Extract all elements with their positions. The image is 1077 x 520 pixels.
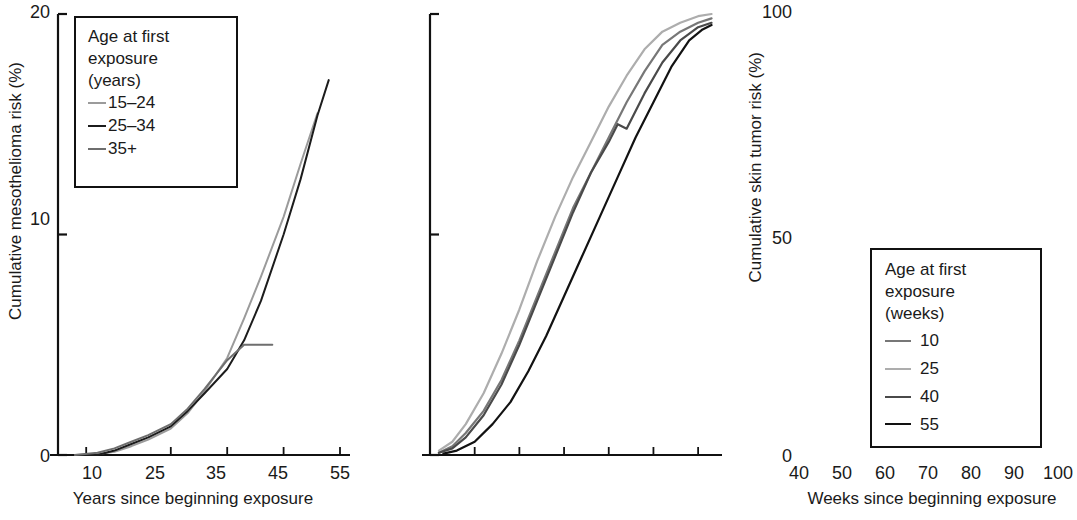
y-tick-left-20: 20 xyxy=(12,2,50,23)
x-axis-label-left: Years since beginning exposure xyxy=(28,489,358,509)
x-tick-left-55: 55 xyxy=(320,463,360,484)
x-tick-left-45: 45 xyxy=(258,463,298,484)
legend-right-label-25: 25 xyxy=(920,358,939,380)
legend-left-title-line-1: Age at first xyxy=(88,26,236,48)
legend-right-title-line-3: (weeks) xyxy=(885,303,1040,325)
x-axis-label-right: Weeks since beginning exposure xyxy=(764,489,1077,509)
legend-right-label-55: 55 xyxy=(920,414,939,436)
legend-right-label-40: 40 xyxy=(920,386,939,408)
legend-swatch-icon-40 xyxy=(885,396,911,398)
legend-right-entry-10: 10 xyxy=(885,330,1040,352)
x-tick-left-10: 10 xyxy=(72,463,112,484)
legend-right-entry-25: 25 xyxy=(885,358,1040,380)
x-tick-right-60: 60 xyxy=(868,463,902,484)
x-tick-right-80: 80 xyxy=(954,463,988,484)
y-tick-right-100: 100 xyxy=(734,2,792,23)
chart-panel-left: Cumulative mesothelioma risk (%) Years s… xyxy=(0,0,368,520)
x-tick-left-35: 35 xyxy=(196,463,236,484)
legend-left-label-15-24: 15–24 xyxy=(108,92,155,114)
skin-tumor-plot xyxy=(368,0,736,520)
legend-left-label-35-plus: 35+ xyxy=(108,138,137,160)
x-tick-right-40: 40 xyxy=(782,463,816,484)
legend-left-entry-35-plus: 35+ xyxy=(88,138,236,160)
legend-left: Age at first exposure (years) 15–24 25–3… xyxy=(74,16,238,188)
y-tick-left-0: 0 xyxy=(12,446,50,467)
x-tick-right-50: 50 xyxy=(825,463,859,484)
legend-left-entry-15-24: 15–24 xyxy=(88,92,236,114)
legend-swatch-icon-35-plus xyxy=(88,148,106,150)
chart-panel-right: Cumulative skin tumor risk (%) Weeks sin… xyxy=(368,0,736,520)
legend-swatch-icon-15-24 xyxy=(88,102,106,104)
y-axis-label-left: Cumulative mesothelioma risk (%) xyxy=(6,62,26,320)
x-tick-right-70: 70 xyxy=(911,463,945,484)
x-tick-right-90: 90 xyxy=(997,463,1031,484)
legend-swatch-icon-55 xyxy=(885,423,911,425)
legend-swatch-icon-10 xyxy=(885,340,911,342)
legend-left-title-line-2: exposure xyxy=(88,48,236,70)
x-tick-left-25: 25 xyxy=(135,463,175,484)
legend-right-entry-40: 40 xyxy=(885,386,1040,408)
legend-swatch-icon-25 xyxy=(885,368,911,370)
legend-right-title-line-1: Age at first xyxy=(885,259,1040,281)
legend-right-title-line-2: exposure xyxy=(885,281,1040,303)
y-tick-right-50: 50 xyxy=(744,228,792,249)
legend-right-entry-55: 55 xyxy=(885,414,1040,436)
legend-swatch-icon-25-34 xyxy=(88,125,106,127)
legend-right-label-10: 10 xyxy=(920,330,939,352)
legend-left-title-line-3: (years) xyxy=(88,70,236,92)
x-tick-right-100: 100 xyxy=(1036,463,1077,484)
legend-right: Age at first exposure (weeks) 10 25 40 5… xyxy=(870,248,1042,448)
y-tick-left-10: 10 xyxy=(12,209,50,230)
legend-left-entry-25-34: 25–34 xyxy=(88,115,236,137)
legend-left-label-25-34: 25–34 xyxy=(108,115,155,137)
